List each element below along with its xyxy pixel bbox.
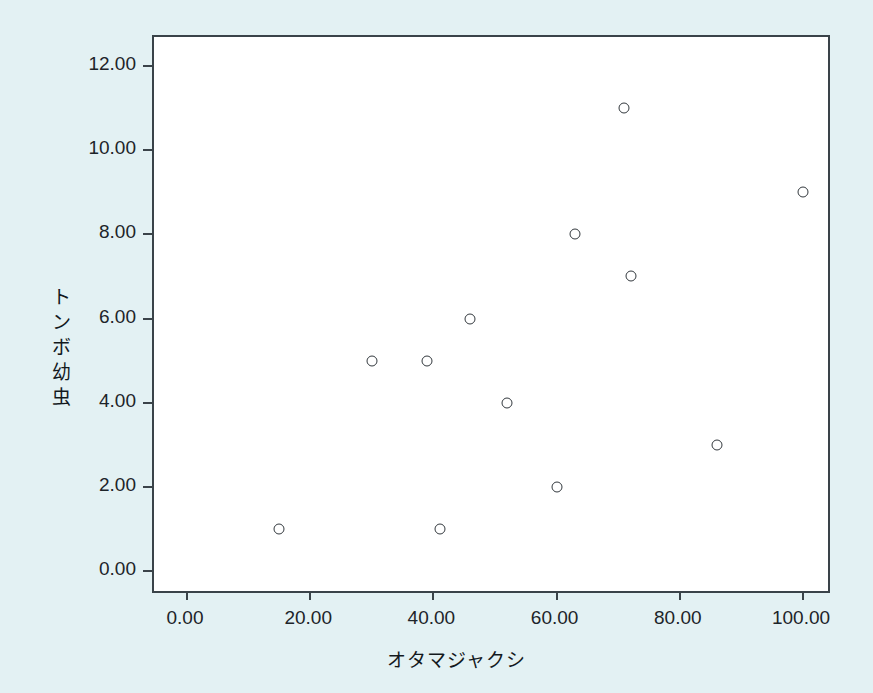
x-axis-tick: [679, 591, 681, 600]
data-point: [274, 523, 285, 534]
x-axis-tick-label: 20.00: [284, 607, 332, 629]
x-axis-tick: [432, 591, 434, 600]
y-axis-tick-label: 10.00: [0, 137, 136, 159]
x-axis-tick-label: 60.00: [531, 607, 579, 629]
x-axis-tick: [556, 591, 558, 600]
data-point: [625, 271, 636, 282]
x-axis-title-text: オタマジャクシ: [347, 650, 526, 671]
x-axis-tick-label: 80.00: [654, 607, 702, 629]
y-axis-tick: [143, 65, 152, 67]
y-axis-tick: [143, 570, 152, 572]
y-axis-tick: [143, 402, 152, 404]
x-axis-tick-label: 0.00: [167, 607, 204, 629]
x-axis-tick: [802, 591, 804, 600]
data-point: [619, 103, 630, 114]
y-axis-tick: [143, 149, 152, 151]
x-axis-tick-label: 100.00: [772, 607, 830, 629]
data-point: [551, 481, 562, 492]
y-axis-tick-label: 2.00: [0, 474, 136, 496]
y-axis-tick-label: 4.00: [0, 390, 136, 412]
plot-frame: [152, 35, 830, 593]
y-axis-tick: [143, 486, 152, 488]
data-point: [465, 313, 476, 324]
y-axis-tick-label: 0.00: [0, 558, 136, 580]
x-axis-tick: [309, 591, 311, 600]
data-point: [434, 523, 445, 534]
data-point: [366, 355, 377, 366]
y-axis-tick: [143, 233, 152, 235]
y-axis-tick: [143, 318, 152, 320]
data-point: [570, 229, 581, 240]
x-axis-tick: [186, 591, 188, 600]
plot-area: [154, 37, 828, 591]
y-axis-tick-label: 6.00: [0, 306, 136, 328]
y-axis-tick-label: 12.00: [0, 53, 136, 75]
x-axis-tick-label: 40.00: [408, 607, 456, 629]
y-axis-tick-label: 8.00: [0, 221, 136, 243]
data-point: [798, 187, 809, 198]
data-point: [502, 397, 513, 408]
data-point: [711, 439, 722, 450]
data-point: [422, 355, 433, 366]
x-axis-title: オタマジャクシ: [0, 645, 873, 672]
scatter-plot-page: トンボ幼虫 オタマジャクシ 0.002.004.006.008.0010.001…: [0, 0, 873, 693]
